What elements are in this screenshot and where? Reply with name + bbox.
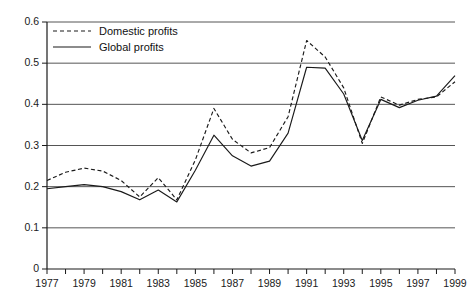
x-tick-label: 1977 [27,277,67,289]
x-tick-label: 1987 [212,277,252,289]
y-axis-ticks [42,22,47,269]
x-tick-label: 1985 [175,277,215,289]
series-line-global-profits [47,67,455,202]
legend-item-global-profits: Global profits [52,40,178,54]
y-tick-label: 0.1 [5,221,39,233]
x-tick-label: 1989 [250,277,290,289]
y-tick-label: 0.5 [5,56,39,68]
y-tick-label: 0 [5,262,39,274]
legend-label-domestic-profits: Domestic profits [99,25,178,37]
y-tick-label: 0.2 [5,180,39,192]
y-tick-label: 0.3 [5,139,39,151]
chart-legend: Domestic profits Global profits [52,24,178,54]
legend-item-domestic-profits: Domestic profits [52,24,178,38]
data-series-group [47,41,455,202]
x-tick-label: 1979 [64,277,104,289]
x-tick-label: 1981 [101,277,141,289]
x-axis-ticks [47,269,455,274]
y-tick-label: 0.4 [5,97,39,109]
legend-swatch-solid-icon [52,42,92,52]
series-line-domestic-profits [47,41,455,200]
legend-label-global-profits: Global profits [99,41,164,53]
x-tick-label: 1991 [287,277,327,289]
legend-swatch-dashed-icon [52,26,92,36]
x-tick-label: 1997 [398,277,438,289]
y-tick-label: 0.6 [5,15,39,27]
x-tick-label: 1983 [138,277,178,289]
x-tick-label: 1999 [435,277,471,289]
x-tick-label: 1993 [324,277,364,289]
x-tick-label: 1995 [361,277,401,289]
